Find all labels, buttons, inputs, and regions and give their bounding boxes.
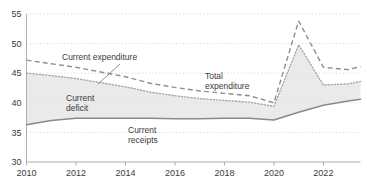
annotation-label-2: expenditure [205, 81, 250, 91]
y-tick-label-55: 55 [11, 9, 21, 19]
x-tick-label-2022: 2022 [313, 168, 333, 178]
x-axis-tick-labels: 2010201220142016201820202022 [16, 168, 333, 178]
current-expenditure-leader-line [98, 64, 120, 84]
x-tick-label-2018: 2018 [214, 168, 234, 178]
annotation-label-4: deficit [66, 103, 89, 113]
annotation-label-3: Current [66, 93, 95, 103]
y-tick-label-30: 30 [11, 157, 21, 167]
annotation-label-5: Current [128, 125, 157, 135]
x-tick-label-2010: 2010 [16, 168, 36, 178]
y-axis-tick-labels: 303540455055 [11, 9, 21, 167]
line-chart: 303540455055 201020122014201620182020202… [0, 0, 367, 190]
chart-page: 303540455055 201020122014201620182020202… [0, 0, 367, 190]
annotation-label-0: Current expenditure [62, 52, 137, 62]
y-tick-label-35: 35 [11, 128, 21, 138]
x-tick-label-2020: 2020 [264, 168, 284, 178]
x-tick-label-2012: 2012 [66, 168, 86, 178]
y-tick-label-40: 40 [11, 98, 21, 108]
y-tick-label-50: 50 [11, 39, 21, 49]
x-tick-label-2016: 2016 [165, 168, 185, 178]
annotation-label-1: Total [205, 71, 223, 81]
annotation-label-6: receipts [128, 135, 158, 145]
y-tick-label-45: 45 [11, 68, 21, 78]
x-tick-marks [27, 162, 324, 166]
x-tick-label-2014: 2014 [115, 168, 135, 178]
